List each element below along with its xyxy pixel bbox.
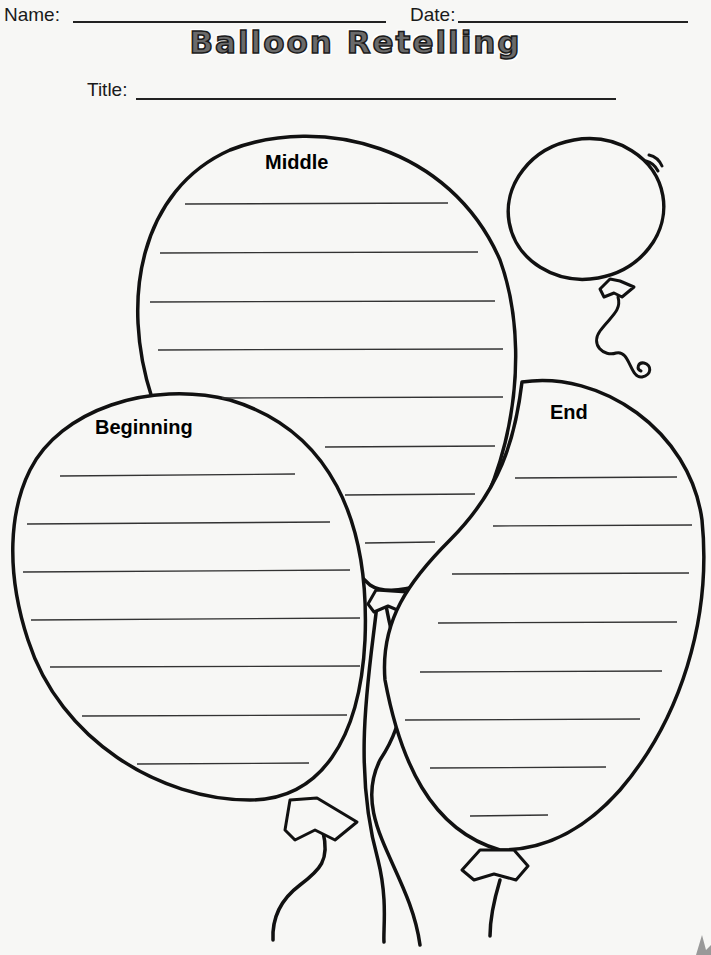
worksheet-page: Name: Date: Balloon Retelling Title: <box>0 0 711 955</box>
middle-label: Middle <box>265 151 328 174</box>
small-balloon-icon <box>497 127 675 378</box>
corner-mark-icon <box>696 935 711 955</box>
end-writing-area[interactable] <box>405 465 695 820</box>
end-label: End <box>550 401 588 424</box>
beginning-writing-area[interactable] <box>25 460 360 770</box>
